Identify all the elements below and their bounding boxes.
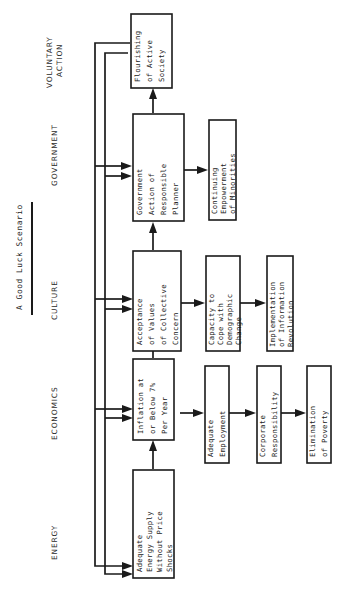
- node-empowerment-minorities[interactable]: Continuing Empowerment of Minorities: [209, 120, 237, 220]
- node-inflation-line1: Inflation at: [136, 378, 145, 434]
- node-empowerment-minorities-line2: Empowerment: [219, 163, 228, 214]
- node-flourishing-society-line3: Society: [157, 49, 166, 82]
- edge-corporate-to-poverty: [281, 409, 306, 417]
- node-demographic-capacity-line2: Cope with: [216, 303, 225, 345]
- node-elimination-of-poverty-line2: of Poverty: [320, 410, 329, 457]
- node-energy-supply-line4: Shocks: [165, 544, 174, 572]
- flowchart-diagram: A Good Luck Scenario ENERGY ECONOMICS CU…: [0, 0, 341, 598]
- node-inflation-line2: or Below 7%: [148, 382, 157, 434]
- node-empowerment-minorities-line1: Continuing: [210, 167, 219, 214]
- node-adequate-employment[interactable]: Adequate Employment: [205, 366, 229, 463]
- feedback-from-flourishing: [95, 43, 133, 570]
- node-corporate-responsibility-line2: Responsibility: [270, 391, 279, 457]
- node-information-revolution-line2: of Information: [277, 282, 286, 347]
- edge-government-to-flourishing: [149, 88, 157, 113]
- node-empowerment-minorities-line3: of Minorities: [228, 153, 237, 214]
- edge-demographic-to-information: [240, 299, 266, 307]
- node-flourishing-society[interactable]: Flourishing of Active Society: [131, 14, 172, 88]
- column-header-energy: ENERGY: [50, 525, 59, 560]
- node-government-action-line3: Responsible: [159, 164, 168, 215]
- node-inflation-line3: Per Year: [160, 396, 169, 434]
- node-corporate-responsibility-line1: Corporate: [258, 415, 267, 457]
- node-demographic-capacity-line3: Demographic: [225, 294, 234, 345]
- node-acceptance-values-line1: Acceptance: [135, 298, 144, 345]
- node-adequate-employment-line1: Adequate: [206, 420, 215, 457]
- node-government-action[interactable]: Government Action of Responsible Planner: [133, 114, 184, 221]
- column-header-government: GOVERNMENT: [50, 124, 59, 186]
- node-flourishing-society-line2: of Active: [145, 40, 154, 82]
- node-government-action-line1: Government: [135, 168, 144, 215]
- diagram-title-group: A Good Luck Scenario: [15, 202, 32, 315]
- feedback-from-government: [105, 53, 133, 578]
- column-headers: ENERGY ECONOMICS CULTURE GOVERNMENT VOLU…: [45, 36, 64, 560]
- node-demographic-capacity-line4: Change: [234, 317, 243, 345]
- node-acceptance-values-line4: Concern: [171, 312, 180, 345]
- node-energy-supply-line3: Without Price: [155, 511, 164, 572]
- edge-employment-to-corporate: [229, 409, 256, 417]
- node-information-revolution-line3: Revolution: [286, 300, 295, 347]
- column-header-voluntary-line1: VOLUNTARY: [45, 36, 54, 88]
- node-demographic-capacity-line1: Capacity to: [207, 294, 216, 345]
- edge-acceptance-to-demographic: [181, 299, 205, 307]
- node-flourishing-society-line1: Flourishing: [133, 31, 142, 82]
- edge-acceptance-to-government: [149, 222, 157, 250]
- node-corporate-responsibility[interactable]: Corporate Responsibility: [257, 366, 281, 463]
- node-acceptance-values[interactable]: Acceptance of Values of Collective Conce…: [133, 251, 181, 351]
- column-header-culture: CULTURE: [50, 280, 59, 320]
- node-energy-supply-line2: Energy Supply: [145, 511, 154, 572]
- diagram-canvas: A Good Luck Scenario ENERGY ECONOMICS CU…: [0, 0, 341, 598]
- node-acceptance-values-line3: of Collective: [159, 284, 168, 345]
- node-government-action-line2: Action of: [147, 173, 156, 215]
- node-acceptance-values-line2: of Values: [147, 303, 156, 345]
- node-inflation[interactable]: Inflation at or Below 7% Per Year: [133, 359, 174, 440]
- edge-inflation-to-employment: [180, 409, 204, 417]
- node-information-revolution-line1: Implementation: [268, 282, 277, 347]
- node-elimination-of-poverty[interactable]: Elimination of Poverty: [307, 366, 331, 463]
- edge-government-to-empowerment: [184, 166, 208, 174]
- column-header-voluntary-line2: ACTION: [55, 43, 64, 77]
- node-government-action-line4: Planner: [171, 182, 180, 215]
- node-demographic-capacity[interactable]: Capacity to Cope with Demographic Change: [206, 256, 243, 351]
- diagram-title: A Good Luck Scenario: [15, 204, 24, 310]
- column-header-economics: ECONOMICS: [50, 386, 59, 440]
- node-elimination-of-poverty-line1: Elimination: [308, 406, 317, 457]
- edge-energy-to-inflation: [149, 440, 157, 469]
- node-adequate-employment-line2: Employment: [218, 410, 227, 457]
- node-energy-supply-line1: Adequate: [135, 535, 144, 572]
- node-information-revolution[interactable]: Implementation of Information Revolution: [267, 256, 295, 351]
- node-energy-supply[interactable]: Adequate Energy Supply Without Price Sho…: [133, 470, 174, 578]
